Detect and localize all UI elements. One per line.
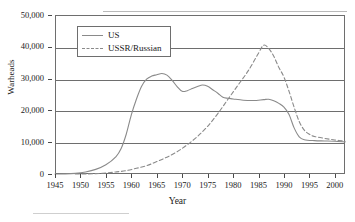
x-tick-mark [309, 174, 310, 178]
x-tick-label: 2000 [326, 180, 343, 190]
footer-divider [33, 213, 129, 214]
x-tick-label: 1965 [148, 180, 165, 190]
legend-label-ussr-russian: USSR/Russian [108, 43, 162, 53]
y-tick-label: 30,000 [21, 74, 44, 83]
x-tick-mark [259, 174, 260, 178]
x-tick-label: 1995 [301, 180, 318, 190]
cropped-header-text [175, 0, 325, 7]
y-axis-labels: 010,00020,00030,00040,00050,000 [0, 0, 52, 222]
y-tick-mark [48, 110, 52, 111]
header-divider [103, 11, 347, 12]
y-tick-mark [48, 174, 52, 175]
x-tick-mark [284, 174, 285, 178]
series-line-us [55, 74, 345, 174]
x-tick-label: 1955 [97, 180, 114, 190]
x-tick-label: 1975 [199, 180, 216, 190]
x-tick-label: 1945 [47, 180, 64, 190]
x-tick-mark [233, 174, 234, 178]
legend-label-us: US [108, 30, 120, 40]
x-tick-label: 1960 [123, 180, 140, 190]
y-tick-label: 0 [40, 170, 44, 179]
x-tick-label: 1970 [174, 180, 191, 190]
x-tick-label: 1980 [225, 180, 242, 190]
y-tick-label: 40,000 [21, 42, 44, 51]
figure-container: Warheads 010,00020,00030,00040,00050,000… [0, 0, 355, 222]
y-tick-mark [48, 142, 52, 143]
x-tick-mark [55, 174, 56, 178]
x-tick-label: 1985 [250, 180, 267, 190]
series-line-ussr-russian [75, 45, 345, 174]
y-tick-mark [48, 79, 52, 80]
legend-item-ussr-russian: USSR/Russian [82, 42, 162, 54]
y-tick-label: 50,000 [21, 11, 44, 20]
x-tick-label: 1990 [275, 180, 292, 190]
y-tick-mark [48, 15, 52, 16]
legend-swatch-solid-icon [82, 35, 103, 36]
legend-swatch-dashed-icon [82, 48, 103, 49]
x-tick-mark [131, 174, 132, 178]
legend-item-us: US [82, 29, 120, 41]
x-tick-mark [157, 174, 158, 178]
x-tick-mark [182, 174, 183, 178]
x-axis-title: Year [0, 196, 355, 206]
y-tick-label: 20,000 [21, 106, 44, 115]
x-tick-mark [106, 174, 107, 178]
y-tick-mark [48, 47, 52, 48]
x-tick-mark [208, 174, 209, 178]
x-tick-mark [80, 174, 81, 178]
x-tick-label: 1950 [72, 180, 89, 190]
y-tick-label: 10,000 [21, 138, 44, 147]
x-tick-mark [335, 174, 336, 178]
chart-legend: US USSR/Russian [77, 26, 171, 57]
